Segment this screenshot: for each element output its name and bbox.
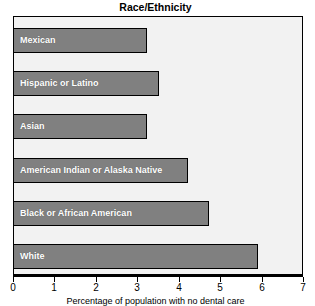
- bar-row: American Indian or Alaska Native: [14, 158, 304, 183]
- x-tick-label: 1: [42, 282, 66, 293]
- bar-label: Black or African American: [20, 201, 132, 226]
- bar-label: Mexican: [20, 28, 56, 53]
- plot-area: MexicanHispanic or LatinoAsianAmerican I…: [13, 16, 303, 275]
- x-tick-label: 2: [84, 282, 108, 293]
- bar[interactable]: [13, 244, 258, 269]
- x-tick-label: 4: [167, 282, 191, 293]
- x-tick-label: 0: [1, 282, 25, 293]
- x-tick-label: 7: [291, 282, 315, 293]
- bar-row: Black or African American: [14, 201, 304, 226]
- x-tick-label: 5: [208, 282, 232, 293]
- x-axis-title: Percentage of population with no dental …: [0, 296, 311, 306]
- bar-row: Mexican: [14, 28, 304, 53]
- x-tick-label: 6: [250, 282, 274, 293]
- bar-label: American Indian or Alaska Native: [20, 158, 162, 183]
- x-axis-line: [13, 275, 303, 277]
- bar-row: Asian: [14, 114, 304, 139]
- bar-label: White: [20, 244, 45, 269]
- bar-label: Asian: [20, 114, 45, 139]
- bar-label: Hispanic or Latino: [20, 71, 99, 96]
- bar-row: Hispanic or Latino: [14, 71, 304, 96]
- x-tick-label: 3: [125, 282, 149, 293]
- chart-title: Race/Ethnicity: [0, 1, 311, 13]
- bar-row: White: [14, 244, 304, 269]
- bars-layer: MexicanHispanic or LatinoAsianAmerican I…: [14, 17, 302, 274]
